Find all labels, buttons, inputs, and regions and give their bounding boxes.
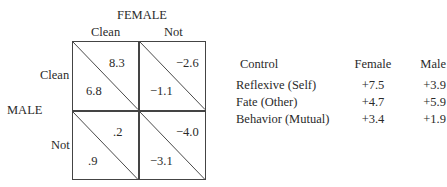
male-payoff: .9: [88, 154, 97, 169]
male-payoff: 6.8: [86, 84, 102, 99]
diagonal-divider: [140, 42, 205, 110]
cell-not-clean: .2 .9: [72, 111, 139, 181]
male-payoff: −3.1: [150, 154, 173, 169]
header-female: Female: [348, 57, 398, 72]
female-value: +4.7: [348, 95, 398, 110]
row-label: Fate (Other): [236, 95, 297, 110]
table-row: Reflexive (Self) +7.5 +3.9: [236, 78, 446, 96]
cell-not-not: −4.0 −3.1: [139, 111, 206, 181]
cell-clean-not: −2.6 −1.1: [139, 41, 206, 111]
table-row: Fate (Other) +4.7 +5.9: [236, 95, 446, 113]
header-control: Control: [240, 57, 278, 72]
column-label-not: Not: [164, 25, 183, 40]
male-value: +1.9: [404, 112, 446, 127]
female-payoff: 8.3: [109, 56, 125, 71]
female-payoff: −4.0: [176, 125, 199, 140]
diagonal-divider: [73, 112, 138, 180]
row-label-clean: Clean: [40, 68, 69, 83]
male-value: +5.9: [404, 95, 446, 110]
female-payoff: .2: [113, 125, 122, 140]
header-male: Male: [404, 57, 446, 72]
table-header: Control Female Male: [236, 57, 446, 75]
row-label: Reflexive (Self): [236, 78, 316, 93]
female-value: +3.4: [348, 112, 398, 127]
column-axis-label: FEMALE: [117, 8, 167, 23]
diagonal-divider: [73, 42, 138, 110]
table-row: Behavior (Mutual) +3.4 +1.9: [236, 112, 446, 130]
cell-clean-clean: 8.3 6.8: [72, 41, 139, 111]
row-label-not: Not: [51, 138, 70, 153]
female-value: +7.5: [348, 78, 398, 93]
row-axis-label: MALE: [7, 103, 42, 118]
male-value: +3.9: [404, 78, 446, 93]
column-label-clean: Clean: [91, 25, 120, 40]
row-label: Behavior (Mutual): [236, 112, 329, 127]
female-payoff: −2.6: [176, 56, 199, 71]
matrix-grid: 8.3 6.8 −2.6 −1.1 .2 .9 −4.0 −3.1: [72, 41, 206, 180]
diagonal-divider: [140, 112, 205, 180]
male-payoff: −1.1: [150, 84, 173, 99]
